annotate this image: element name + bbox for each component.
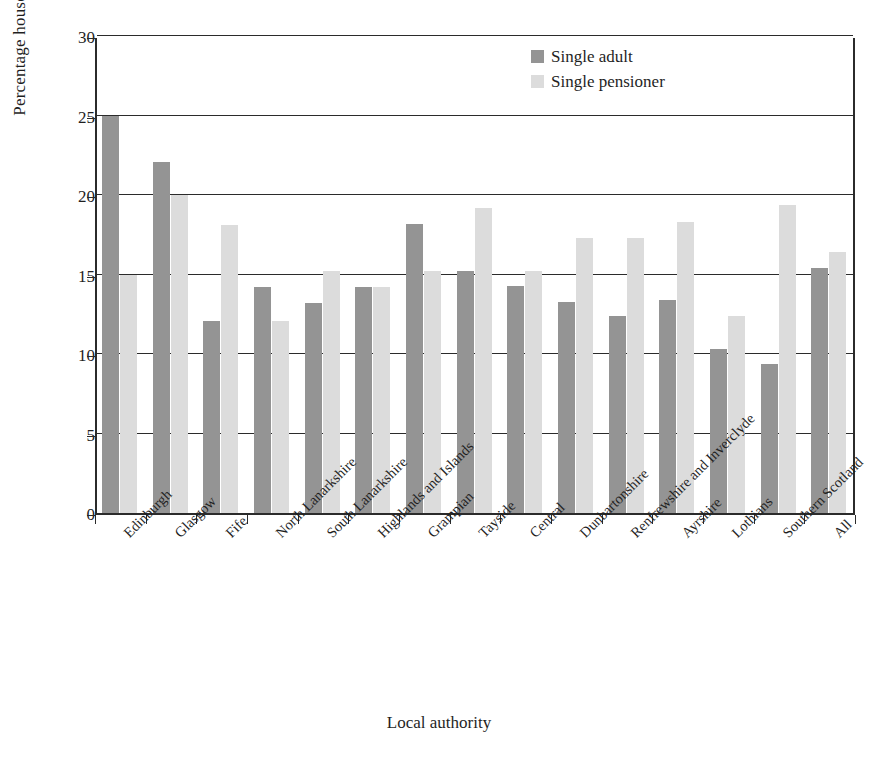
x-axis-category-label: Fife	[223, 513, 250, 540]
x-axis-category-label: Ayrshire	[679, 495, 724, 540]
x-axis-category-label: Tayside	[476, 498, 518, 540]
x-axis-category-label: All	[831, 517, 854, 540]
x-axis-category-label: Edinburgh	[121, 487, 174, 540]
legend-label: Single pensioner	[551, 73, 665, 90]
bar-chart: Percentage households 051015202530 Edinb…	[0, 0, 878, 764]
legend-swatch-icon	[531, 75, 544, 88]
x-axis-category-label: Glasgow	[172, 494, 219, 541]
legend-label: Single adult	[551, 48, 633, 65]
x-axis-category-label: Central	[527, 500, 567, 540]
legend-item[interactable]: Single pensioner	[531, 69, 761, 94]
x-axis-category-label: Highlands and Islands	[375, 439, 476, 540]
x-axis-category-label: Lothians	[729, 494, 775, 540]
x-axis-category-label: Grampian	[425, 489, 476, 540]
x-axis-labels: EdinburghGlasgowFifeNorth LanarkshireSou…	[0, 0, 878, 764]
legend-item[interactable]: Single adult	[531, 44, 761, 69]
legend-swatch-icon	[531, 50, 544, 63]
x-axis-title: Local authority	[0, 713, 878, 733]
legend: Single adultSingle pensioner	[531, 44, 761, 94]
